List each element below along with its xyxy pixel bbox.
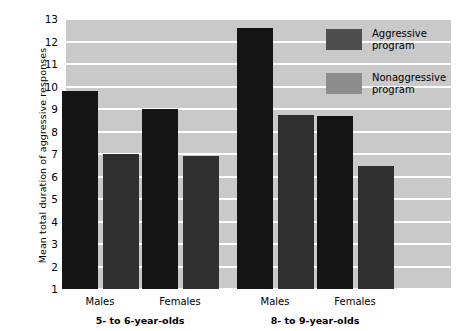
y-tick-label: 3 — [18, 238, 58, 250]
category-label: Females — [159, 296, 200, 307]
y-tick-label: 9 — [18, 103, 58, 115]
bar-nonaggressive — [358, 166, 394, 289]
legend-label-nonaggressive-line1: Nonaggressive — [372, 72, 446, 83]
y-tick-label: 2 — [18, 261, 58, 273]
group-label: 5- to 6-year-olds — [96, 315, 185, 326]
y-tick-label: 11 — [18, 58, 58, 70]
bar-series-container — [66, 19, 451, 289]
legend-swatch-aggressive — [326, 29, 362, 50]
y-tick-label: 4 — [18, 216, 58, 228]
y-tick-label: 10 — [18, 81, 58, 93]
legend-label-aggressive: Aggressive program — [372, 28, 427, 51]
y-tick-label: 7 — [18, 148, 58, 160]
bar-nonaggressive — [103, 154, 139, 289]
bar-aggressive — [62, 91, 98, 289]
y-tick-label: 13 — [18, 13, 58, 25]
bar-nonaggressive — [278, 115, 314, 289]
legend-label-aggressive-line1: Aggressive — [372, 28, 427, 39]
legend-label-aggressive-line2: program — [372, 40, 415, 51]
group-label: 8- to 9-year-olds — [271, 315, 360, 326]
legend-label-nonaggressive-line2: program — [372, 84, 415, 95]
y-tick-label: 5 — [18, 193, 58, 205]
bar-aggressive — [237, 28, 273, 289]
legend-item-nonaggressive: Nonaggressive program — [326, 72, 446, 95]
category-label: Females — [334, 296, 375, 307]
plot-area — [66, 19, 451, 289]
y-tick-label: 1 — [18, 283, 58, 295]
category-label: Males — [261, 296, 290, 307]
category-label: Males — [86, 296, 115, 307]
bar-aggressive — [317, 116, 353, 289]
bar-nonaggressive — [183, 156, 219, 289]
y-tick-label: 8 — [18, 126, 58, 138]
y-tick-label: 6 — [18, 171, 58, 183]
bar-chart-figure: Mean total duration of aggressive respon… — [0, 0, 457, 331]
y-tick-label: 12 — [18, 36, 58, 48]
legend-swatch-nonaggressive — [326, 73, 362, 94]
legend-item-aggressive: Aggressive program — [326, 28, 427, 51]
legend-label-nonaggressive: Nonaggressive program — [372, 72, 446, 95]
bar-aggressive — [142, 109, 178, 289]
